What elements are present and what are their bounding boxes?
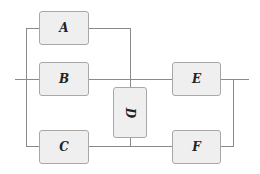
block-d-label: D bbox=[123, 107, 137, 117]
block-d: D bbox=[113, 87, 147, 138]
output-wire bbox=[233, 79, 249, 80]
block-b: B bbox=[39, 62, 89, 96]
left-bus-wire bbox=[26, 28, 27, 147]
block-c: C bbox=[39, 130, 89, 164]
b-to-e-wire bbox=[89, 79, 172, 80]
block-b-label: B bbox=[59, 72, 69, 86]
block-f-label: F bbox=[192, 140, 201, 154]
block-a: A bbox=[39, 11, 89, 45]
reliability-block-diagram: A B C D E F bbox=[0, 0, 260, 174]
block-e-label: E bbox=[192, 72, 201, 86]
bus-to-c-wire bbox=[26, 146, 39, 147]
block-f: F bbox=[172, 130, 221, 164]
e-output-wire bbox=[221, 79, 233, 80]
c-to-f-wire bbox=[89, 146, 172, 147]
block-c-label: C bbox=[59, 140, 69, 154]
f-output-wire bbox=[221, 146, 233, 147]
bus-to-a-wire bbox=[26, 28, 39, 29]
a-output-wire bbox=[89, 28, 131, 29]
input-wire bbox=[15, 79, 39, 80]
block-e: E bbox=[172, 62, 221, 96]
right-bus-wire bbox=[233, 79, 234, 147]
block-a-label: A bbox=[59, 21, 68, 35]
